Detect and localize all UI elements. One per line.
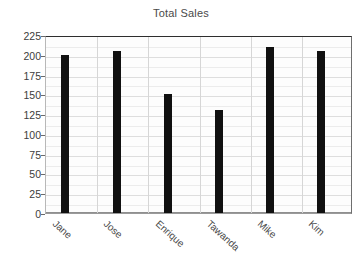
gridline-horizontal-minor — [46, 166, 351, 167]
y-axis-tick-label: 175 — [1, 70, 41, 82]
y-axis-tick-label: 100 — [1, 129, 41, 141]
chart-title: Total Sales — [0, 7, 362, 19]
y-axis-tick-label: 75 — [1, 149, 41, 161]
y-axis-tick-label: 0 — [1, 208, 41, 220]
gridline-horizontal — [46, 136, 351, 137]
gridline-horizontal-minor — [46, 205, 351, 206]
x-axis-tick-label: Kim — [307, 218, 327, 238]
bar-mike — [266, 47, 274, 213]
gridline-horizontal — [46, 96, 351, 97]
gridline-horizontal-minor — [46, 106, 351, 107]
gridline-horizontal — [46, 77, 351, 78]
gridline-horizontal — [46, 175, 351, 176]
gridline-horizontal-minor — [46, 126, 351, 127]
gridline-vertical — [302, 37, 303, 213]
gridline-horizontal — [46, 156, 351, 157]
y-axis-tick-label: 25 — [1, 188, 41, 200]
x-axis-tick-label: Tawanda — [204, 218, 241, 253]
bar-jane — [61, 55, 69, 213]
bar-jose — [113, 51, 121, 213]
gridline-horizontal-minor — [46, 86, 351, 87]
bar-chart: Total Sales 2252001751501251007550250 Ja… — [0, 0, 362, 272]
gridline-horizontal-minor — [46, 47, 351, 48]
x-axis-tick-label: Mike — [256, 218, 279, 240]
gridline-horizontal-minor — [46, 67, 351, 68]
y-axis-tick-label: 50 — [1, 168, 41, 180]
y-axis-tick-label: 200 — [1, 50, 41, 62]
gridline-vertical — [251, 37, 252, 213]
x-axis-tick-label: Jane — [51, 218, 74, 241]
bar-tawanda — [215, 110, 223, 213]
bar-enrique — [164, 94, 172, 213]
gridline-vertical — [148, 37, 149, 213]
y-axis-tick-label: 125 — [1, 109, 41, 121]
y-axis: 2252001751501251007550250 — [0, 36, 41, 214]
gridline-horizontal — [46, 195, 351, 196]
x-axis-baseline — [46, 212, 351, 213]
bar-kim — [317, 51, 325, 213]
gridline-horizontal — [46, 57, 351, 58]
gridline-horizontal-minor — [46, 185, 351, 186]
gridline-horizontal — [46, 116, 351, 117]
y-axis-tick-label: 150 — [1, 89, 41, 101]
x-axis: JaneJoseEnriqueTawandaMikeKim — [45, 214, 352, 272]
plot-area — [45, 36, 352, 214]
gridline-vertical — [200, 37, 201, 213]
gridline-horizontal-minor — [46, 146, 351, 147]
x-axis-tick-label: Jose — [102, 218, 125, 240]
x-axis-tick-label: Enrique — [153, 218, 186, 249]
y-axis-tick-label: 225 — [1, 30, 41, 42]
gridline-vertical — [97, 37, 98, 213]
